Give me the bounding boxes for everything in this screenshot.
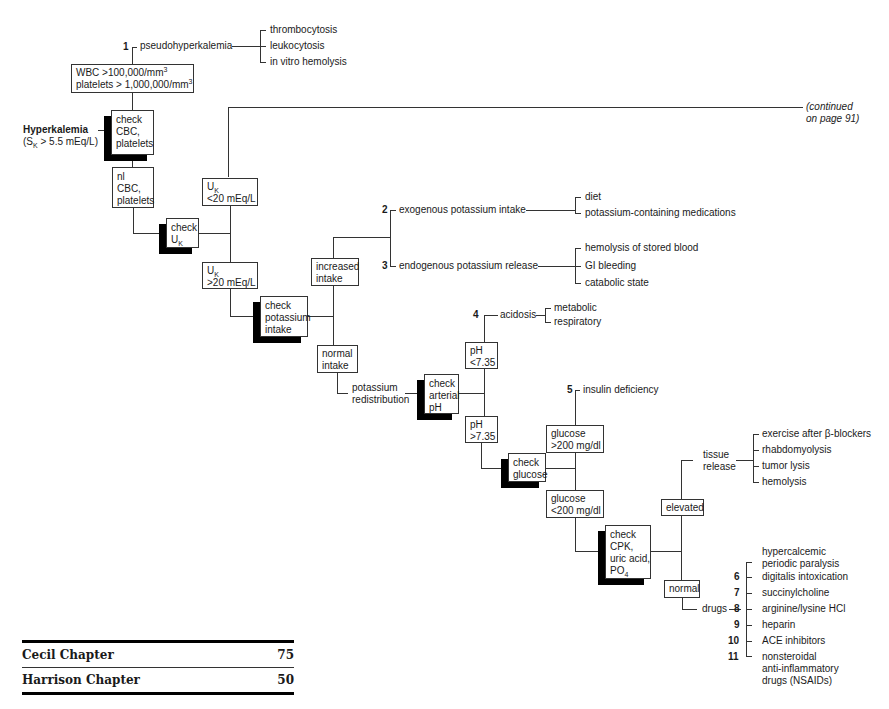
normal-node: normal [664,580,700,598]
drug-item-digitalis: digitalis intoxication [762,571,848,583]
cause-tumor-lysis: tumor lysis [762,460,810,472]
check-arterial-ph-node: checkarterialpH [424,374,459,414]
urine-potassium-low-node: UK<20 mEq/L [202,178,258,206]
reference-value: 50 [277,673,294,687]
branch-number-7: 7 [734,587,740,599]
acidosis-label: acidosis [500,309,536,321]
cause-thrombocytosis: thrombocytosis [270,24,337,36]
reference-label: Harrison Chapter [22,673,140,687]
elevated-node: elevated [661,499,704,516]
tissue-release-label: tissuerelease [703,449,736,473]
branch-number-5: 5 [567,384,573,396]
increased-intake-node: increasedintake [311,258,359,286]
connector-lines [0,0,889,709]
check-urine-potassium-node: checkUK [166,218,199,248]
title-criterion: (SK > 5.5 mEq/L) [23,136,98,147]
cause-leukocytosis: leukocytosis [270,40,324,52]
branch-number-11: 11 [728,651,739,663]
drugs-label: drugs [702,603,727,615]
reference-label: Cecil Chapter [22,648,114,662]
check-glucose-node: checkglucose [508,453,546,482]
cause-respiratory: respiratory [554,316,601,328]
branch-number-1: 1 [123,41,129,53]
drug-item-arginine-lysine: arginine/lysine HCl [762,603,845,615]
title-main: Hyperkalemia [23,124,88,135]
cause-hemolysis-stored-blood: hemolysis of stored blood [585,242,698,254]
wbc-platelets-node: WBC >100,000/mm3 platelets > 1,000,000/m… [71,64,194,93]
cause-metabolic: metabolic [554,302,597,314]
pseudohyperkalemia-label: pseudohyperkalemia [140,40,232,52]
insulin-deficiency-label: insulin deficiency [583,384,659,396]
cause-exercise-beta-blockers: exercise after β-blockers [762,428,871,440]
check-potassium-intake-node: checkpotassiumintake [260,296,308,337]
branch-number-8: 8 [734,603,740,615]
cause-hemolysis: hemolysis [762,476,806,488]
normal-cbc-node: nlCBC,platelets [112,167,154,208]
exogenous-intake-label: exogenous potassium intake [399,204,526,216]
cause-catabolic-state: catabolic state [585,277,649,289]
normal-intake-node: normalintake [317,345,358,373]
branch-number-2: 2 [382,204,388,216]
cause-gi-bleeding: GI bleeding [585,260,636,272]
reference-value: 75 [277,648,294,662]
glucose-high-node: glucose>200 mg/dl [546,425,604,453]
branch-number-6: 6 [734,571,740,583]
cause-diet: diet [585,191,601,203]
cause-in-vitro-hemolysis: in vitro hemolysis [270,56,347,68]
diagram-title: Hyperkalemia (SK > 5.5 mEq/L) [23,124,98,148]
ph-low-node: pH<7.35 [465,342,498,369]
reference-row-cecil: Cecil Chapter 75 [22,643,294,667]
reference-row-harrison: Harrison Chapter 50 [22,667,294,692]
cause-potassium-medications: potassium-containing medications [585,207,736,219]
branch-number-4: 4 [473,309,479,321]
branch-number-3: 3 [382,260,388,272]
check-cbc-node: checkCBC,platelets [111,110,154,155]
drug-item-succinylcholine: succinylcholine [762,587,829,599]
glucose-low-node: glucose<200 mg/dl [546,490,604,518]
cause-rhabdomyolysis: rhabdomyolysis [762,444,831,456]
branch-number-9: 9 [734,619,740,631]
ph-high-node: pH>7.35 [465,416,498,443]
drug-item-ace-inhibitors: ACE inhibitors [762,635,825,647]
endogenous-release-label: endogenous potassium release [399,260,538,272]
urine-potassium-high-node: UK>20 mEq/L [202,262,258,289]
potassium-redistribution-label: potassiumredistribution [352,382,409,406]
continued-note: (continuedon page 91) [806,101,859,125]
branch-number-10: 10 [728,635,739,647]
chapter-references: Cecil Chapter 75 Harrison Chapter 50 [22,640,294,695]
drug-item-hypercalcemic-paralysis: hypercalcemicperiodic paralysis [762,546,839,570]
check-cpk-uric-acid-phosphate-node: checkCPK,uric acid,PO4 [605,525,651,579]
drug-item-heparin: heparin [762,619,795,631]
drug-item-nsaids: nonsteroidalanti-inflammatorydrugs (NSAI… [762,651,839,687]
